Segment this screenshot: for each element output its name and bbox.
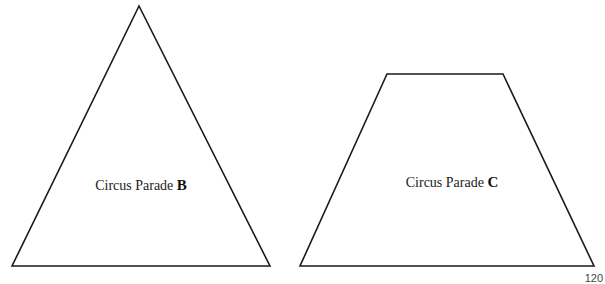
- figure-b-label: Circus Parade B: [95, 177, 187, 194]
- triangle-b-shape: [12, 6, 270, 266]
- figure-c-letter: C: [487, 174, 498, 190]
- page-number: 120: [585, 272, 603, 284]
- figure-b-label-text: Circus Parade: [95, 178, 177, 193]
- figure-b-letter: B: [177, 177, 187, 193]
- trapezoid-c-shape: [300, 74, 594, 266]
- figure-c-label: Circus Parade C: [406, 174, 499, 191]
- figure-c-label-text: Circus Parade: [406, 175, 488, 190]
